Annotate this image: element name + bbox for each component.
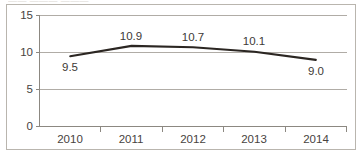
clipped-title-remnant: —— ——— ——— — [8, 0, 208, 3]
plot-area: 15 10 5 0 2010 2011 2012 2013 2014 9.5 1… — [7, 5, 357, 151]
x-axis-label-2013: 2013 — [224, 133, 284, 145]
y-axis-label-15: 15 — [7, 9, 33, 21]
y-axis-label-10: 10 — [7, 46, 33, 58]
x-axis-label-2014: 2014 — [286, 133, 346, 145]
y-axis-label-0: 0 — [7, 120, 33, 132]
x-axis-label-2011: 2011 — [101, 133, 161, 145]
x-axis-label-2012: 2012 — [163, 133, 223, 145]
x-axis-label-2010: 2010 — [40, 133, 100, 145]
y-axis-label-5: 5 — [7, 83, 33, 95]
data-label-2014: 9.0 — [296, 65, 336, 77]
data-label-2012: 10.7 — [173, 31, 213, 43]
line-chart-svg — [7, 5, 357, 151]
chart-screenshot: —— ——— ——— — [0, 0, 364, 158]
data-label-2011: 10.9 — [111, 30, 151, 42]
data-label-2013: 10.1 — [234, 35, 274, 47]
chart-frame: 15 10 5 0 2010 2011 2012 2013 2014 9.5 1… — [6, 4, 356, 150]
data-label-2010: 9.5 — [50, 61, 90, 73]
